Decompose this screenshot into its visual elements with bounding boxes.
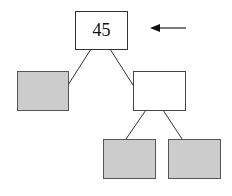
node-box (104, 140, 156, 179)
arrow-left-icon (150, 24, 186, 32)
node-box (18, 72, 69, 111)
tree-node-root: 45 (76, 12, 128, 50)
edge-root-left (68, 49, 91, 85)
node-box (134, 72, 186, 111)
node-label: 45 (93, 20, 111, 40)
edge-right-rightleft (126, 110, 146, 139)
tree-node-right-right (169, 140, 221, 179)
edge-right-rightright (163, 110, 182, 139)
tree-diagram: 45 (0, 0, 232, 196)
tree-node-left (18, 72, 69, 111)
tree-node-right-left (104, 140, 156, 179)
node-box (169, 140, 221, 179)
tree-node-right (134, 72, 186, 111)
edge-root-right (110, 49, 133, 85)
